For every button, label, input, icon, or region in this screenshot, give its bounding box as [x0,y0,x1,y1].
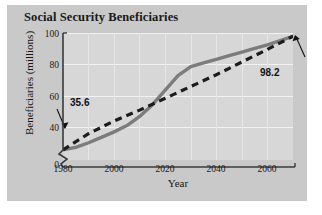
y-tick-label-100: 100 [45,29,59,39]
x-tick-label-1980: 1980 [43,164,83,174]
y-tick-label-80: 80 [50,60,60,70]
x-tick-label-2040: 2040 [196,164,236,174]
figure-inner: Social Security Beneficiaries [7,5,307,201]
x-tick-label-2020: 2020 [145,164,185,174]
data-label-start: 35.6 [70,97,89,108]
y-axis-title: Beneficiaries (millions) [23,23,35,143]
data-label-end: 98.2 [260,67,279,78]
chart-figure: Social Security Beneficiaries [7,5,307,201]
y-tick-label-40: 40 [50,123,60,133]
y-tick-label-60: 60 [50,92,60,102]
x-axis-title: Year [63,177,293,189]
x-tick-label-2000: 2000 [94,164,134,174]
x-tick-label-2060: 2060 [247,164,287,174]
